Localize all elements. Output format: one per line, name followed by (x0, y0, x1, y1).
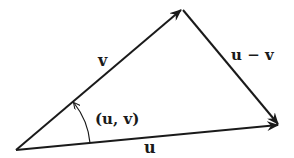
angle-arc-icon (74, 103, 90, 143)
label-u: u (144, 138, 156, 157)
vector-diagram: v u u − v (u, v) (0, 0, 294, 158)
vector-u-minus-v-line (183, 10, 278, 124)
label-u-minus-v: u − v (231, 46, 275, 64)
label-angle: (u, v) (95, 110, 139, 128)
label-v: v (97, 51, 108, 70)
vector-v-line (16, 10, 181, 150)
